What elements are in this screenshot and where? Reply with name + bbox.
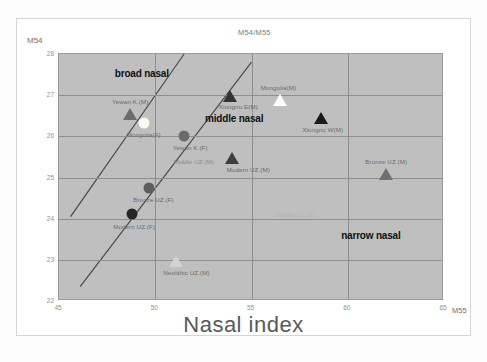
data-point-label: Mongolia(M) xyxy=(261,84,297,91)
plot-area: broad nasalmiddle nasalnarrow nasalYewan… xyxy=(58,53,443,300)
gridline-horizontal xyxy=(59,95,442,96)
data-point-circle xyxy=(144,182,155,193)
gridline-horizontal xyxy=(59,260,442,261)
data-point-circle xyxy=(127,208,138,219)
data-point-label: Mongolia(F) xyxy=(127,131,161,138)
data-point-triangle xyxy=(314,112,328,124)
y-axis-title: M54 xyxy=(27,36,43,45)
gridline-horizontal xyxy=(59,219,442,220)
gridline-vertical xyxy=(348,54,349,299)
gridline-vertical xyxy=(155,54,156,299)
data-point-triangle xyxy=(225,152,239,164)
zone-label: broad nasal xyxy=(115,67,169,78)
x-axis-main-label: Nasal index xyxy=(0,312,487,338)
chart-title: M54/M55 xyxy=(238,28,271,37)
gridline-vertical xyxy=(252,54,253,299)
data-point-triangle xyxy=(169,255,183,267)
data-point-triangle xyxy=(123,108,137,120)
zone-label: narrow nasal xyxy=(341,230,400,241)
data-point-label: Bronze UZ.(F) xyxy=(133,196,174,203)
data-point-label: Middle UZ.(M) xyxy=(174,158,215,165)
data-point-circle xyxy=(138,117,149,128)
zone-label: middle nasal xyxy=(205,112,263,123)
data-point-triangle xyxy=(223,90,237,102)
screenshot-root: M54/M55 M54 M55 Nasal index broad nasalm… xyxy=(0,0,487,362)
data-point-label: Modern UZ.(M) xyxy=(227,166,270,173)
data-point-label: Yewan K.(M) xyxy=(112,98,148,105)
data-point-label: Modern UZ.(F) xyxy=(113,223,155,230)
data-point-circle xyxy=(179,131,190,142)
data-point-label: Neolithic UZ.(M) xyxy=(163,269,209,276)
data-point-label: Middle UZ.(F) xyxy=(276,211,315,218)
data-point-label: Xiongnu E(M) xyxy=(219,103,258,110)
data-point-triangle xyxy=(379,168,393,180)
data-point-label: Yewan K.(F) xyxy=(173,144,208,151)
data-point-label: Bronze UZ.(M) xyxy=(365,158,407,165)
data-point-triangle xyxy=(273,94,287,106)
data-point-label: Xiongnu W(M) xyxy=(302,126,343,133)
gridline-horizontal xyxy=(59,136,442,137)
